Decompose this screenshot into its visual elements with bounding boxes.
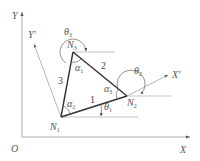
y-prime-axis <box>34 44 61 117</box>
x-prime-label: X' <box>171 69 181 80</box>
alpha2-label: α2 <box>67 98 75 110</box>
node-n2-label: N2 <box>126 97 137 109</box>
x-prime-axis <box>127 75 168 96</box>
edge-2-label: 2 <box>101 60 106 71</box>
node-n1-label: N1 <box>49 121 60 133</box>
y-axis-label: Y <box>12 10 19 21</box>
alpha3-label: α3 <box>104 83 112 95</box>
y-prime-label: Y' <box>28 29 37 40</box>
alpha1-label: α1 <box>75 62 83 74</box>
labels: O X Y Y' X' N1 N2 N3 1 2 3 α1 α2 α3 θ1 θ… <box>11 10 187 155</box>
edge-3-label: 3 <box>58 75 63 86</box>
edge-2 <box>73 52 127 96</box>
x-axis-label: X <box>179 144 187 155</box>
edge-1-label: 1 <box>90 94 95 105</box>
theta3-label: θ3 <box>64 26 72 38</box>
node-n3-label: N3 <box>66 39 77 51</box>
diagram-canvas: O X Y Y' X' N1 N2 N3 1 2 3 α1 α2 α3 θ1 θ… <box>0 0 200 161</box>
origin-label: O <box>11 143 18 154</box>
theta2-label: θ2 <box>134 65 142 77</box>
global-axes <box>22 12 190 137</box>
theta1-label: θ1 <box>104 101 112 113</box>
